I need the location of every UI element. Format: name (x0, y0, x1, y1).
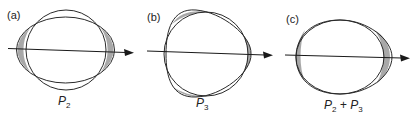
caption-p3: P3 (196, 96, 209, 112)
panel-c-label: (c) (286, 13, 299, 25)
legendre-deformation-figure: (a) P2 (b) P3 (c) (0, 0, 418, 117)
panel-a: (a) P2 (7, 9, 134, 110)
arrow-head-icon (263, 52, 273, 59)
axis-arrow-line (147, 51, 265, 55)
panel-c: (c) P2 + P3 (285, 13, 410, 114)
panel-b-label: (b) (147, 11, 160, 23)
caption-p2: P2 (58, 94, 71, 110)
arrow-head-icon (124, 49, 134, 56)
shaded-lobe-left (18, 28, 30, 72)
panel-a-label: (a) (7, 9, 20, 21)
arrow-head-icon (400, 55, 410, 62)
caption-p2-plus-p3: P2 + P3 (324, 98, 363, 114)
panel-b: (b) P3 (147, 10, 273, 112)
